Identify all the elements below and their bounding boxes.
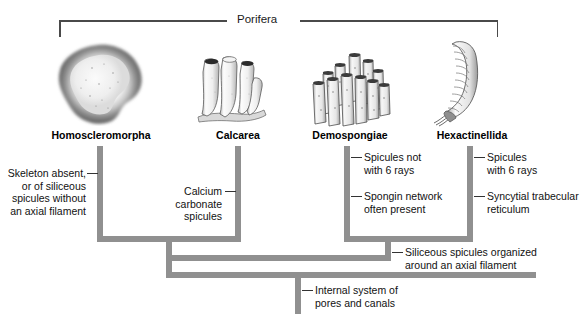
bracket-tick-right <box>497 20 499 37</box>
taxon-label-homoscleromorpha: Homoscleromorpha <box>20 129 182 141</box>
clade-bar-demospongiae-hexactinellida <box>344 236 473 242</box>
character-tick-root <box>302 290 313 291</box>
taxon-label-hexactinellida: Hexactinellida <box>412 129 532 141</box>
illustration-demospongiae <box>305 42 397 128</box>
character-label-hexactinellida-2: Syncytial trabecular reticulum <box>487 190 586 215</box>
root-bar <box>166 272 536 278</box>
illustration-calcarea <box>192 44 270 126</box>
character-label-demospongiae-2: Spongin network often present <box>364 190 482 215</box>
character-tick-demospongiae-2 <box>351 196 362 197</box>
character-label-calcarea: Calcium carbonate spicules <box>140 185 222 223</box>
character-label-homoscleromorpha: Skeleton absent, or of siliceous spicule… <box>2 167 86 217</box>
character-tick-homoscleromorpha <box>87 173 98 174</box>
illustration-homoscleromorpha <box>52 42 152 126</box>
character-tick-hexactinellida-2 <box>474 196 485 197</box>
character-label-siliceous-clade: Siliceous spicules organized around an a… <box>405 246 586 271</box>
character-label-demospongiae-1: Spicules not with 6 rays <box>364 151 474 176</box>
character-tick-calcarea <box>225 191 236 192</box>
bracket-horizontal-right <box>300 20 498 22</box>
taxon-label-demospongiae: Demospongiae <box>290 129 410 141</box>
character-tick-siliceous-clade <box>392 252 403 253</box>
illustration-hexactinellida <box>432 36 504 128</box>
character-label-hexactinellida-1: Spicules with 6 rays <box>487 151 583 176</box>
character-tick-hexactinellida-1 <box>474 157 485 158</box>
root-stem <box>295 272 301 314</box>
branch-stem-demospongiae <box>344 146 350 240</box>
bracket-horizontal-left <box>59 20 227 22</box>
taxon-label-calcarea: Calcarea <box>178 129 298 141</box>
bracket-tick-left <box>59 20 61 37</box>
group-label-porifera: Porifera <box>232 13 282 25</box>
clade-bar-siliceous <box>166 255 391 261</box>
branch-stem-homoscleromorpha <box>97 146 103 240</box>
cladogram-figure: Porifera <box>0 0 586 316</box>
character-label-root: Internal system of pores and canals <box>315 284 455 309</box>
branch-stem-calcarea <box>235 146 241 240</box>
character-tick-demospongiae-1 <box>351 157 362 158</box>
